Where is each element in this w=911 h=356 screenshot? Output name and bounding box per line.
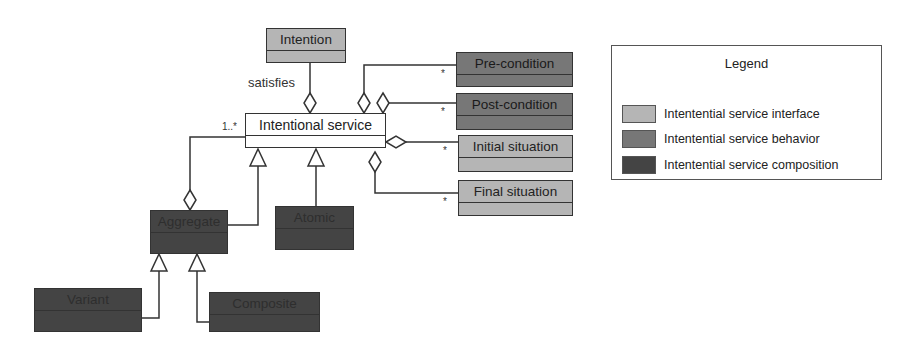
class-name: Atomic — [276, 207, 353, 229]
class-name: Pre-condition — [457, 53, 572, 75]
class-name: Initial situation — [459, 136, 572, 158]
class-composite[interactable]: Composite — [209, 292, 320, 332]
class-name: Composite — [210, 293, 319, 315]
initial-situation-multiplicity: * — [443, 145, 447, 156]
aggregate-composition-line — [190, 137, 245, 190]
class-intention[interactable]: Intention — [266, 28, 346, 63]
class-name: Final situation — [459, 181, 572, 203]
class-initial-situation[interactable]: Initial situation — [458, 135, 573, 172]
class-name: Aggregate — [151, 211, 227, 233]
class-name: Intentional service — [246, 114, 385, 136]
composite-generalization-line — [197, 271, 209, 322]
generalization-triangle-icon — [250, 149, 266, 166]
legend-item-composition: Intentential service composition — [622, 155, 838, 175]
class-name: Variant — [35, 289, 141, 311]
final-situation-multiplicity: * — [443, 196, 447, 207]
generalization-triangle-icon — [151, 254, 167, 271]
class-post-condition[interactable]: Post-condition — [456, 93, 573, 130]
legend-swatch-behavior — [622, 130, 656, 148]
aggregation-diamond-icon — [358, 93, 370, 113]
aggregation-diamond-icon — [386, 136, 406, 148]
legend-item-label: Intentential service composition — [664, 158, 838, 172]
pre-condition-multiplicity: * — [441, 68, 445, 79]
aggregation-diamond-icon — [377, 93, 389, 113]
aggregation-diamond-icon — [369, 152, 381, 172]
class-aggregate[interactable]: Aggregate — [150, 210, 228, 254]
class-variant[interactable]: Variant — [34, 288, 142, 332]
post-condition-multiplicity: * — [441, 106, 445, 117]
class-name: Intention — [267, 29, 345, 51]
legend-item-interface: Intentential service interface — [622, 104, 820, 124]
final-situation-line — [375, 172, 458, 193]
aggregate-multiplicity: 1..* — [222, 121, 237, 132]
class-final-situation[interactable]: Final situation — [458, 180, 573, 216]
class-intentional-service[interactable]: Intentional service — [245, 113, 386, 148]
aggregation-diamond-icon — [304, 93, 316, 113]
class-pre-condition[interactable]: Pre-condition — [456, 52, 573, 87]
legend-item-label: Intentential service behavior — [664, 132, 820, 146]
class-name: Post-condition — [457, 94, 572, 116]
legend-item-label: Intentential service interface — [664, 107, 820, 121]
satisfies-label: satisfies — [248, 75, 295, 90]
class-atomic[interactable]: Atomic — [275, 206, 354, 250]
aggregation-diamond-icon — [184, 190, 196, 210]
legend-swatch-interface — [622, 105, 656, 123]
variant-generalization-line — [142, 271, 159, 318]
legend: Legend Intentential service interface In… — [611, 45, 882, 180]
generalization-triangle-icon — [189, 254, 205, 271]
aggregate-generalization-line — [228, 166, 258, 225]
legend-item-behavior: Intentential service behavior — [622, 129, 820, 149]
generalization-triangle-icon — [308, 149, 324, 166]
legend-title: Legend — [612, 56, 881, 71]
legend-swatch-composition — [622, 156, 656, 174]
